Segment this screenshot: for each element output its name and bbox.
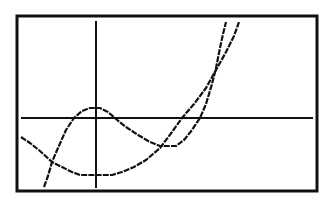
graph-screen	[0, 0, 335, 203]
curve-cubic	[44, 22, 226, 187]
plot-frame	[17, 16, 317, 191]
curve-parabola	[21, 22, 239, 175]
